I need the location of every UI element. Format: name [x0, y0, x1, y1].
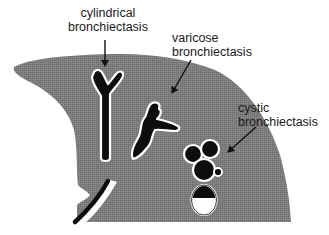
bronchiectasis-diagram: cylindrical bronchiectasis varicose bron…: [0, 0, 329, 235]
varicose-label: varicose bronchiectasis: [172, 31, 252, 59]
varicose-label-line2: bronchiectasis: [172, 45, 252, 59]
varicose-label-line1: varicose: [172, 31, 252, 45]
cylindrical-label-line1: cylindrical: [68, 6, 148, 20]
fluid-filled-cyst: [192, 185, 217, 215]
cylindrical-label-line2: bronchiectasis: [68, 20, 148, 34]
cylindrical-label: cylindrical bronchiectasis: [68, 6, 148, 34]
cystic-label-line2: bronchiectasis: [238, 115, 318, 129]
cystic-label: cystic bronchiectasis: [238, 101, 318, 129]
cystic-label-line1: cystic: [238, 101, 318, 115]
